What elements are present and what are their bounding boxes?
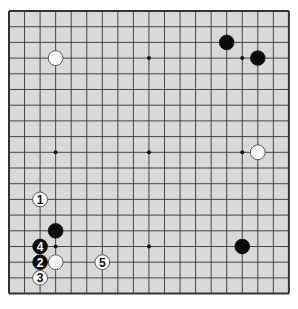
move-number-label: 4	[37, 240, 44, 254]
black-stone-move-4: 4	[33, 239, 48, 254]
stone-circle	[48, 223, 63, 238]
black-stone	[235, 239, 250, 254]
stone-circle	[250, 145, 265, 160]
move-number-label: 3	[37, 271, 44, 285]
star-point	[147, 245, 151, 249]
white-stone	[250, 145, 265, 160]
stone-circle	[219, 35, 234, 50]
white-stone-move-5: 5	[95, 255, 110, 270]
stone-circle	[48, 255, 63, 270]
move-number-label: 1	[37, 193, 44, 207]
move-number-label: 2	[37, 256, 44, 270]
white-stone	[48, 255, 63, 270]
black-stone	[250, 51, 265, 66]
white-stone-move-1: 1	[33, 192, 48, 207]
white-stone-move-3: 3	[33, 271, 48, 286]
black-stone-move-2: 2	[33, 255, 48, 270]
star-point	[54, 245, 58, 249]
go-board: 12345	[0, 0, 298, 309]
stone-circle	[235, 239, 250, 254]
star-point	[54, 150, 58, 154]
black-stone	[219, 35, 234, 50]
stone-circle	[48, 51, 63, 66]
move-number-label: 5	[99, 256, 106, 270]
white-stone	[48, 51, 63, 66]
stone-circle	[250, 51, 265, 66]
star-point	[147, 56, 151, 60]
star-point	[240, 150, 244, 154]
star-point	[240, 56, 244, 60]
black-stone	[48, 223, 63, 238]
star-point	[147, 150, 151, 154]
